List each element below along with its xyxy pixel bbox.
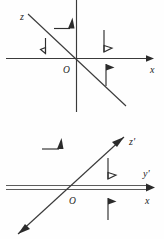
moment-arrow-upper-left-vertical <box>41 38 46 54</box>
label-z-prime-axis: z' <box>128 136 136 147</box>
lower-double-axis <box>6 184 155 192</box>
label-y-prime-axis: y' <box>142 168 150 179</box>
label-z-axis: z <box>19 11 24 22</box>
upper-panel: z x O <box>0 0 164 120</box>
moment-arrow-upper-right-up <box>106 64 115 86</box>
label-origin-lower: O <box>69 196 76 206</box>
label-origin-upper: O <box>63 65 70 75</box>
figure-root: z x O z' <box>0 0 164 239</box>
moment-arrow-lower-right-up <box>108 198 117 220</box>
moment-arrow-upper-right-down <box>104 30 112 52</box>
moment-arrow-lower-right-down <box>108 158 116 179</box>
label-x-axis-upper: x <box>149 64 155 75</box>
moment-arrow-upper-left-horizontal <box>54 18 75 29</box>
upper-x-axis <box>6 55 154 61</box>
label-x-axis-lower: x <box>144 195 150 206</box>
lower-panel: z' y' x O <box>0 120 164 239</box>
moment-arrow-lower-left-horizontal <box>42 138 64 149</box>
